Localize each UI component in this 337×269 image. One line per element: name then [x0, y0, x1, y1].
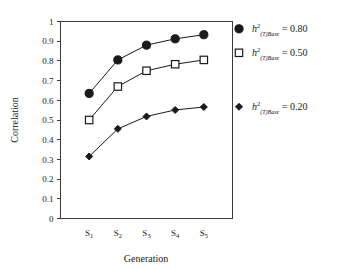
y-tick-label: 0 [49, 214, 54, 224]
data-point-marker [143, 67, 150, 74]
data-point-marker [114, 56, 122, 64]
data-point-marker [200, 56, 207, 63]
data-point-marker [200, 31, 208, 39]
data-point-marker [142, 41, 150, 49]
data-point-marker [85, 116, 92, 123]
data-point-marker [235, 49, 242, 56]
y-tick-label: 0.9 [42, 36, 54, 46]
y-tick-label: 0.6 [42, 96, 54, 106]
y-tick-label: 0.4 [42, 135, 54, 145]
data-point-marker [85, 89, 93, 97]
y-tick-label: 0.5 [42, 115, 54, 125]
y-axis-title: Correlation [9, 97, 20, 143]
data-point-marker [171, 35, 179, 43]
y-tick-label: 1 [49, 17, 54, 27]
y-tick-label: 0.8 [42, 56, 54, 66]
y-tick-label: 0.1 [42, 194, 53, 204]
figure-container: 00.10.20.30.40.50.60.70.80.91 S1S2S3S4S5… [0, 0, 337, 269]
data-point-marker [235, 25, 243, 33]
data-point-marker [171, 61, 178, 68]
y-tick-label: 0.3 [42, 155, 54, 165]
y-tick-label: 0.7 [42, 76, 54, 86]
data-point-marker [114, 83, 121, 90]
correlation-line-chart: 00.10.20.30.40.50.60.70.80.91 S1S2S3S4S5… [0, 0, 337, 269]
x-axis-title: Generation [124, 253, 168, 264]
y-tick-label: 0.2 [42, 174, 53, 184]
